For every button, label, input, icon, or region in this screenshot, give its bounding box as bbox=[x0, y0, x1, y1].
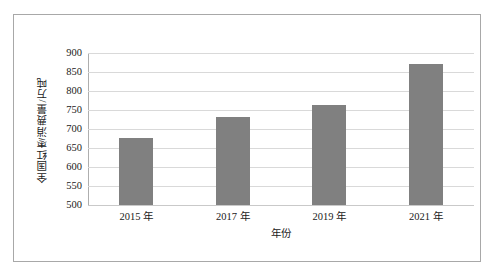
y-axis-title: 全国红枣消费量/万吨 bbox=[36, 53, 50, 205]
bar bbox=[216, 117, 250, 205]
x-axis-title: 年份 bbox=[88, 229, 474, 240]
bar bbox=[409, 64, 443, 205]
chart-figure: 全国红枣消费量/万吨 90085080075070065060055050020… bbox=[13, 14, 481, 262]
y-axis-title-label: 全国红枣消费量/万吨 bbox=[38, 76, 49, 183]
y-axis-tick-label: 750 bbox=[66, 105, 82, 116]
gridline bbox=[88, 53, 474, 54]
plot-area: 9008508007507006506005505002015 年2017 年2… bbox=[88, 53, 474, 205]
x-axis-category-label: 2019 年 bbox=[312, 212, 346, 223]
y-axis-tick-label: 650 bbox=[66, 143, 82, 154]
y-axis-tick-label: 700 bbox=[66, 124, 82, 135]
y-axis-tick-label: 850 bbox=[66, 67, 82, 78]
x-axis-category-label: 2021 年 bbox=[409, 212, 443, 223]
bar bbox=[312, 105, 346, 205]
bar bbox=[119, 138, 153, 205]
y-axis-tick-label: 600 bbox=[66, 162, 82, 173]
y-axis-tick-label: 900 bbox=[66, 48, 82, 59]
y-axis-tick-label: 800 bbox=[66, 86, 82, 97]
gridline bbox=[88, 205, 474, 206]
x-axis-category-label: 2017 年 bbox=[216, 212, 250, 223]
y-axis-tick-label: 550 bbox=[66, 181, 82, 192]
x-axis-category-label: 2015 年 bbox=[119, 212, 153, 223]
y-axis-tick-label: 500 bbox=[66, 200, 82, 211]
